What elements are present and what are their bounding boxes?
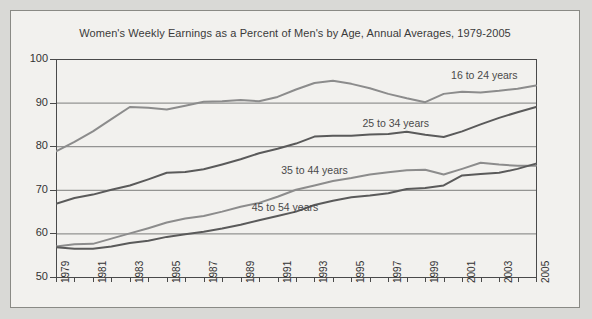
x-axis-tick: [481, 277, 482, 282]
x-axis-tick: [56, 277, 57, 282]
x-axis-tick: [499, 277, 500, 282]
x-axis-tick-label: 1985: [171, 261, 182, 283]
chart-frame: Women's Weekly Earnings as a Percent of …: [10, 10, 580, 308]
x-axis-tick: [167, 277, 168, 282]
x-axis-tick-label: 1981: [97, 261, 108, 283]
x-axis-tick: [222, 277, 223, 282]
y-axis-tick: [50, 103, 56, 104]
x-axis-tick: [111, 277, 112, 282]
x-axis-tick: [536, 277, 537, 282]
x-axis-tick-label: 1989: [245, 261, 256, 283]
y-axis-tick-label: 80: [22, 139, 48, 151]
x-axis-tick-label: 1999: [429, 261, 440, 283]
x-axis-tick: [93, 277, 94, 282]
x-axis-tick-label: 2003: [503, 261, 514, 283]
x-axis-tick-label: 1993: [318, 261, 329, 283]
x-axis-tick-label: 2005: [540, 261, 551, 283]
y-axis-tick: [50, 59, 56, 60]
x-axis-tick: [444, 277, 445, 282]
x-axis-tick: [241, 277, 242, 282]
x-axis-tick: [314, 277, 315, 282]
series-label-1: 16 to 24 years: [451, 69, 518, 81]
x-axis-tick: [296, 277, 297, 282]
x-axis-tick: [425, 277, 426, 282]
x-axis-tick: [333, 277, 334, 282]
x-axis-tick: [74, 277, 75, 282]
y-axis-tick-label: 100: [22, 52, 48, 64]
chart-title: Women's Weekly Earnings as a Percent of …: [11, 27, 579, 39]
x-axis-tick: [388, 277, 389, 282]
series-label-3: 35 to 44 years: [281, 164, 348, 176]
y-axis-tick-label: 60: [22, 226, 48, 238]
series-line-1: [56, 81, 536, 152]
x-axis-tick: [407, 277, 408, 282]
y-axis-tick: [50, 146, 56, 147]
y-axis-tick-label: 90: [22, 96, 48, 108]
x-axis-tick-label: 2001: [466, 261, 477, 283]
series-label-4: 45 to 54 years: [252, 201, 319, 213]
x-axis-tick-label: 1997: [392, 261, 403, 283]
y-axis-tick-label: 50: [22, 270, 48, 282]
x-axis-tick-label: 1979: [60, 261, 71, 283]
x-axis-tick: [462, 277, 463, 282]
y-axis-tick: [50, 233, 56, 234]
x-axis-tick-label: 1995: [355, 261, 366, 283]
x-axis-tick-label: 1983: [134, 261, 145, 283]
y-axis-tick: [50, 190, 56, 191]
x-axis-tick: [351, 277, 352, 282]
x-axis-tick: [278, 277, 279, 282]
x-axis-tick-label: 1987: [208, 261, 219, 283]
x-axis-tick: [259, 277, 260, 282]
x-axis-tick: [148, 277, 149, 282]
series-label-2: 25 to 34 years: [362, 117, 429, 129]
x-axis-tick: [370, 277, 371, 282]
x-axis-tick: [518, 277, 519, 282]
x-axis-tick: [204, 277, 205, 282]
y-axis-tick-label: 70: [22, 183, 48, 195]
x-axis-tick: [185, 277, 186, 282]
x-axis-tick-label: 1991: [282, 261, 293, 283]
x-axis-tick: [130, 277, 131, 282]
